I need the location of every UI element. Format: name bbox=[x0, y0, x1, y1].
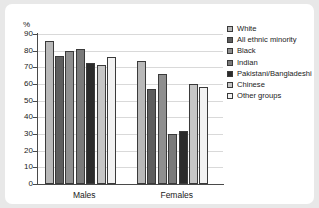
y-axis-tick-label: 90 bbox=[13, 30, 33, 38]
legend-swatch-icon bbox=[227, 93, 233, 99]
legend-label: Black bbox=[237, 47, 256, 55]
y-axis-tick bbox=[33, 84, 37, 85]
legend-swatch-icon bbox=[227, 48, 233, 54]
legend-swatch-icon bbox=[227, 26, 233, 32]
y-axis-tick-label: 80 bbox=[13, 47, 33, 55]
bar bbox=[137, 61, 146, 184]
bar bbox=[76, 49, 85, 184]
legend-item[interactable]: Pakistani/Bangladeshi bbox=[227, 68, 313, 79]
y-axis-tick bbox=[33, 101, 37, 102]
bar bbox=[199, 87, 208, 185]
y-axis-tick bbox=[33, 34, 37, 35]
bar bbox=[107, 57, 116, 185]
legend-label: All ethnic minority bbox=[237, 36, 297, 44]
bar bbox=[147, 89, 156, 184]
y-axis-tick-labels: 0102030405060708090 bbox=[9, 4, 33, 208]
legend-label: White bbox=[237, 25, 256, 33]
legend-item[interactable]: Black bbox=[227, 46, 313, 57]
bar bbox=[97, 65, 106, 184]
y-axis-tick-label: 40 bbox=[13, 113, 33, 121]
y-axis-line bbox=[37, 33, 38, 185]
bar bbox=[168, 134, 177, 184]
x-axis-category-label: Males bbox=[54, 190, 114, 200]
y-axis-tick-label: 30 bbox=[13, 130, 33, 138]
y-axis-tick bbox=[33, 51, 37, 52]
plot-area bbox=[38, 34, 223, 184]
bar bbox=[179, 131, 188, 184]
legend-swatch-icon bbox=[227, 82, 233, 88]
y-axis-tick bbox=[33, 167, 37, 168]
bar bbox=[45, 41, 54, 184]
legend-item[interactable]: Chinese bbox=[227, 79, 313, 90]
chart-legend: WhiteAll ethnic minorityBlackIndianPakis… bbox=[227, 23, 313, 102]
y-axis-tick-label: 0 bbox=[13, 180, 33, 188]
y-axis-tick-label: 20 bbox=[13, 147, 33, 155]
legend-item[interactable]: Indian bbox=[227, 57, 313, 68]
legend-item[interactable]: All ethnic minority bbox=[227, 34, 313, 45]
y-axis-tick-label: 50 bbox=[13, 97, 33, 105]
bar bbox=[86, 63, 95, 184]
legend-item[interactable]: White bbox=[227, 23, 313, 34]
legend-label: Chinese bbox=[237, 81, 265, 89]
legend-swatch-icon bbox=[227, 37, 233, 43]
y-axis-tick bbox=[33, 67, 37, 68]
legend-label: Pakistani/Bangladeshi bbox=[237, 70, 312, 78]
chart-card: % 0102030405060708090 MalesFemales White… bbox=[5, 4, 314, 204]
legend-swatch-icon bbox=[227, 71, 233, 77]
legend-item[interactable]: Other groups bbox=[227, 91, 313, 102]
bar bbox=[158, 74, 167, 184]
y-axis-tick-label: 60 bbox=[13, 80, 33, 88]
y-axis-tick bbox=[33, 134, 37, 135]
legend-swatch-icon bbox=[227, 60, 233, 66]
y-axis-tick bbox=[33, 117, 37, 118]
y-axis-tick-label: 70 bbox=[13, 63, 33, 71]
y-axis-tick bbox=[33, 184, 37, 185]
x-axis-category-label: Females bbox=[147, 190, 207, 200]
bar bbox=[189, 84, 198, 184]
legend-label: Other groups bbox=[237, 92, 281, 100]
y-axis-tick bbox=[33, 151, 37, 152]
legend-label: Indian bbox=[237, 59, 258, 67]
gridline bbox=[38, 34, 223, 35]
y-axis-tick-label: 10 bbox=[13, 163, 33, 171]
bar bbox=[55, 56, 64, 184]
bar bbox=[65, 51, 74, 184]
x-axis-line bbox=[37, 184, 224, 185]
